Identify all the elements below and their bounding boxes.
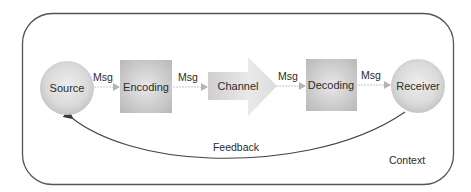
source-label: Source: [50, 82, 85, 94]
encoding-label: Encoding: [123, 81, 169, 93]
communication-diagram: Source Encoding Channel Decoding Receive…: [0, 0, 471, 192]
receiver-label: Receiver: [396, 80, 440, 92]
msg-label-3: Msg: [278, 70, 298, 82]
msg-label-1: Msg: [93, 71, 113, 83]
msg-label-4: Msg: [361, 69, 381, 81]
decoding-label: Decoding: [308, 79, 354, 91]
context-label: Context: [389, 154, 425, 166]
feedback-label: Feedback: [213, 141, 260, 153]
msg-label-2: Msg: [178, 71, 198, 83]
channel-label: Channel: [218, 80, 259, 92]
